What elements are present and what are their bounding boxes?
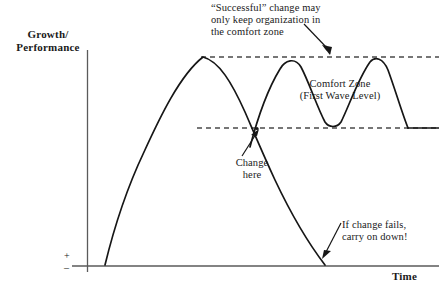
- growth-performance-change-diagram: Growth/ Performance Time + – “Successful…: [0, 0, 439, 291]
- successful-change-wave: [250, 59, 408, 147]
- successful-change-annotation: “Successful” change may only keep organi…: [211, 2, 321, 39]
- negative-sign-label: –: [64, 263, 69, 273]
- change-fails-annotation: If change fails, carry on down!: [342, 219, 408, 243]
- positive-sign-label: +: [64, 251, 70, 261]
- change-fails-arrow: [322, 223, 341, 259]
- change-point-marker: [255, 127, 258, 130]
- change-here-arrow: [242, 129, 259, 156]
- comfort-zone-annotation: Comfort Zone (First Wave Level): [288, 78, 392, 102]
- change-here-annotation: Change here: [229, 157, 275, 181]
- x-axis-label: Time: [392, 270, 417, 283]
- y-axis-label: Growth/ Performance: [12, 28, 84, 54]
